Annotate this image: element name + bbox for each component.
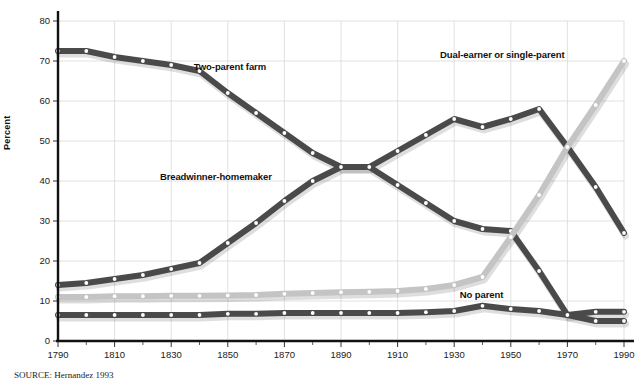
data-point [113,313,117,317]
data-point [169,267,173,271]
data-point [283,311,287,315]
data-point [254,293,258,297]
series-label-breadwinner-homemaker: Breadwinner-homemaker [160,171,272,182]
data-point [594,103,598,107]
data-point [509,235,513,239]
x-tick-label: 1830 [151,349,191,360]
data-point [566,313,570,317]
data-point [84,295,88,299]
data-point [424,310,428,314]
data-point [594,310,598,314]
data-point [481,304,485,308]
data-point [481,227,485,231]
data-point [226,241,230,245]
y-tick-label: 30 [24,215,50,226]
data-point [396,311,400,315]
data-point [396,289,400,293]
y-tick-label: 70 [24,55,50,66]
data-point [198,294,202,298]
data-point [622,59,626,63]
data-point [594,185,598,189]
data-point [622,319,626,323]
data-point [254,312,258,316]
data-point [226,312,230,316]
data-point [367,165,371,169]
data-point [84,281,88,285]
x-tick-label: 1910 [378,349,418,360]
data-point [141,273,145,277]
chart-figure: Percent 01020304050607080 17901810183018… [0,0,636,382]
y-tick-label: 50 [24,135,50,146]
data-point [424,133,428,137]
y-tick-label: 80 [24,15,50,26]
data-point [84,49,88,53]
data-point [198,313,202,317]
data-point [367,290,371,294]
data-point [141,313,145,317]
data-point [283,199,287,203]
data-point [452,117,456,121]
data-point [622,310,626,314]
y-tick-label: 0 [24,335,50,346]
data-point [509,117,513,121]
y-tick-label: 10 [24,295,50,306]
data-point [452,219,456,223]
data-point [339,311,343,315]
data-point [84,313,88,317]
x-tick-label: 1950 [491,349,531,360]
y-axis-title: Percent [2,116,12,150]
series-label-no-parent: No parent [460,289,503,300]
data-point [311,311,315,315]
x-tick-label: 1850 [208,349,248,360]
data-point [169,313,173,317]
data-point [311,291,315,295]
data-point [113,294,117,298]
data-point [113,55,117,59]
data-point [481,125,485,129]
series-label-two-parent-farm: Two-parent farm [194,61,266,72]
data-point [311,179,315,183]
data-point [396,183,400,187]
x-tick-label: 1890 [321,349,361,360]
data-point [594,319,598,323]
x-tick-label: 1990 [604,349,636,360]
data-point [424,201,428,205]
data-point [452,283,456,287]
data-point [424,287,428,291]
data-point [254,221,258,225]
data-point [537,193,541,197]
data-point [141,294,145,298]
data-point [226,91,230,95]
data-point [141,59,145,63]
x-tick-label: 1930 [434,349,474,360]
data-point [396,149,400,153]
data-point [254,111,258,115]
data-point [169,294,173,298]
y-tick-label: 20 [24,255,50,266]
data-point [452,309,456,313]
x-tick-label: 1970 [547,349,587,360]
series-label-dual-earner-or-single-parent: Dual-earner or single-parent [440,49,564,60]
y-tick-label: 40 [24,175,50,186]
x-tick-label: 1810 [95,349,135,360]
data-point [509,307,513,311]
x-tick-label: 1870 [264,349,304,360]
data-point [537,107,541,111]
data-point [481,275,485,279]
data-point [283,292,287,296]
data-point [339,290,343,294]
data-point [622,231,626,235]
data-point [339,165,343,169]
data-point [367,311,371,315]
data-point [537,309,541,313]
data-point [537,269,541,273]
data-point [113,277,117,281]
y-tick-label: 60 [24,95,50,106]
data-point [566,145,570,149]
data-point [169,63,173,67]
data-point [283,131,287,135]
source-note: SOURCE: Hernandez 1993 [14,370,113,380]
data-point [311,151,315,155]
x-tick-label: 1790 [38,349,78,360]
data-point [226,294,230,298]
